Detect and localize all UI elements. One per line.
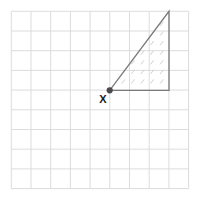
geometry-figure: X <box>0 0 200 200</box>
vertex-label-x: X <box>99 93 107 105</box>
diagram-canvas: X <box>0 0 200 200</box>
vertex-dot-x <box>107 87 113 93</box>
